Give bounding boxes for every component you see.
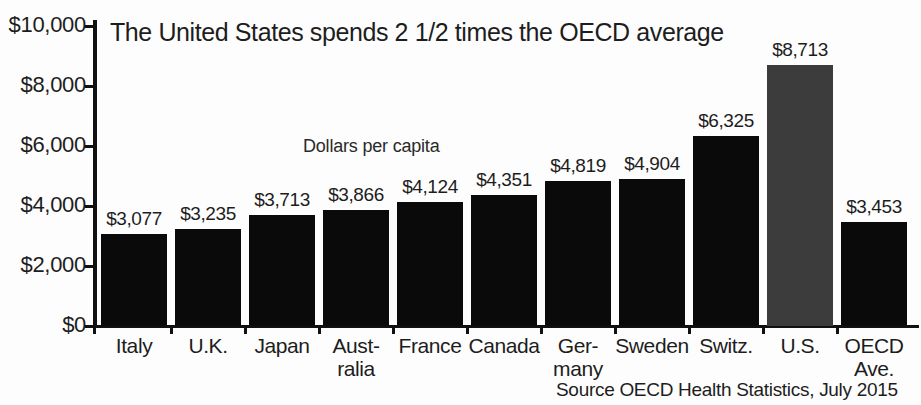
bar-chart-screenshot: The United States spends 2 1/2 times the… xyxy=(0,0,921,405)
x-axis-tick xyxy=(688,325,691,334)
bar-value-label: $3,453 xyxy=(831,197,917,216)
bar[interactable] xyxy=(545,181,611,326)
bar[interactable] xyxy=(323,210,389,326)
y-axis-tick xyxy=(85,85,94,88)
bar-value-label: $4,904 xyxy=(609,154,695,173)
x-axis-tick xyxy=(614,325,617,334)
x-axis-tick xyxy=(170,325,173,334)
bar-value-label: $6,325 xyxy=(683,111,769,130)
y-axis-tick xyxy=(85,265,94,268)
x-axis-tick xyxy=(466,325,469,334)
bar[interactable] xyxy=(101,234,167,326)
bar[interactable] xyxy=(397,202,463,326)
x-axis-tick xyxy=(392,325,395,334)
bar[interactable] xyxy=(693,136,759,326)
bar[interactable] xyxy=(619,179,685,326)
bar[interactable] xyxy=(767,65,833,326)
x-axis-tick xyxy=(318,325,321,334)
x-axis-category-label: OECDAve. xyxy=(830,334,918,380)
x-axis-tick xyxy=(836,325,839,334)
y-axis-tick xyxy=(85,325,94,328)
bar-value-label: $8,713 xyxy=(757,40,843,59)
y-axis-tick xyxy=(85,205,94,208)
bar[interactable] xyxy=(471,195,537,326)
bar[interactable] xyxy=(175,229,241,326)
x-axis-tick xyxy=(244,325,247,334)
bar[interactable] xyxy=(249,215,315,326)
x-axis-tick xyxy=(762,325,765,334)
plot-area: $3,077Italy$3,235U.K.$3,713Japan$3,866Au… xyxy=(0,0,921,405)
source-note: Source OECD Health Statistics, July 2015 xyxy=(556,379,898,400)
x-axis-tick xyxy=(540,325,543,334)
y-axis-tick xyxy=(85,145,94,148)
bar[interactable] xyxy=(841,222,907,326)
y-axis-tick xyxy=(85,25,94,28)
